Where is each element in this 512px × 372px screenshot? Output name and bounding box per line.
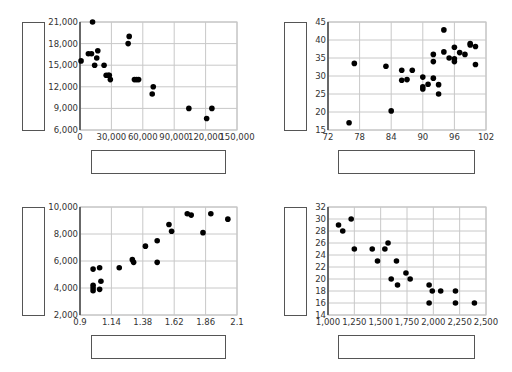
chart-panel-1: 030,00060,00090,000120,000150,0006,0009,… bbox=[0, 0, 256, 186]
data-point bbox=[452, 44, 458, 50]
y-tick-label: 20 bbox=[315, 274, 326, 284]
data-point bbox=[154, 238, 160, 244]
data-point bbox=[382, 246, 388, 252]
data-point bbox=[209, 106, 215, 112]
data-point bbox=[452, 59, 458, 65]
x-tick-label: 102 bbox=[478, 132, 494, 142]
data-point bbox=[420, 86, 426, 92]
data-point bbox=[225, 216, 231, 222]
data-point bbox=[169, 229, 175, 235]
data-point bbox=[204, 116, 210, 122]
data-point bbox=[426, 282, 432, 288]
data-point bbox=[438, 288, 444, 294]
x-tick-label: 1.62 bbox=[165, 317, 184, 327]
x-tick-label: 1.14 bbox=[102, 317, 121, 327]
x-tick-label: 2,000 bbox=[421, 317, 445, 327]
x-tick-label: 96 bbox=[449, 132, 460, 142]
data-point bbox=[453, 288, 459, 294]
data-point bbox=[425, 81, 431, 87]
data-point bbox=[90, 288, 96, 294]
y-tick-label: 9,000 bbox=[54, 103, 78, 113]
data-point bbox=[348, 216, 354, 222]
x-tick-label: 78 bbox=[354, 132, 365, 142]
y-tick-label: 10,000 bbox=[48, 202, 78, 212]
data-point bbox=[446, 55, 452, 61]
data-point bbox=[426, 300, 432, 306]
data-point bbox=[457, 50, 463, 56]
data-point bbox=[95, 48, 101, 54]
y-tick-label: 25 bbox=[315, 89, 326, 99]
y-tick-label: 35 bbox=[315, 53, 326, 63]
data-point bbox=[436, 91, 442, 97]
data-point bbox=[409, 67, 415, 73]
data-point bbox=[94, 55, 100, 61]
y-tick-label: 30 bbox=[315, 214, 326, 224]
y-tick-label: 40 bbox=[315, 35, 326, 45]
scatter-plot: 727884909610215202530354045 bbox=[256, 0, 512, 186]
x-tick-label: 90,000 bbox=[159, 132, 189, 142]
data-point bbox=[116, 265, 122, 271]
x-tick-label: 0 bbox=[77, 132, 82, 142]
data-point bbox=[98, 278, 104, 284]
y-tick-label: 30 bbox=[315, 71, 326, 81]
y-tick-label: 12,000 bbox=[48, 82, 78, 92]
data-point bbox=[92, 62, 98, 68]
scatter-plot: 1,0001,2501,5001,7502,0002,2502,50014161… bbox=[256, 186, 512, 372]
y-tick-label: 18,000 bbox=[48, 39, 78, 49]
data-point bbox=[200, 230, 206, 236]
data-point bbox=[208, 211, 214, 217]
y-tick-label: 21,000 bbox=[48, 17, 78, 27]
x-tick-label: 2.1 bbox=[230, 317, 244, 327]
x-tick-label: 1.38 bbox=[133, 317, 152, 327]
data-point bbox=[462, 52, 468, 58]
y-tick-label: 18 bbox=[315, 286, 326, 296]
x-tick-label: 1,500 bbox=[368, 317, 392, 327]
x-tick-label: 84 bbox=[386, 132, 397, 142]
data-point bbox=[126, 34, 132, 40]
data-point bbox=[404, 77, 410, 83]
x-tick-label: 150,000 bbox=[219, 132, 254, 142]
data-point bbox=[394, 258, 400, 264]
y-tick-label: 32 bbox=[315, 202, 326, 212]
data-point bbox=[136, 77, 142, 83]
data-point bbox=[154, 260, 160, 266]
y-tick-label: 14 bbox=[315, 310, 326, 320]
data-point bbox=[97, 287, 103, 293]
y-tick-label: 4,000 bbox=[54, 283, 78, 293]
y-tick-label: 6,000 bbox=[54, 256, 78, 266]
x-tick-label: 1.86 bbox=[196, 317, 215, 327]
x-tick-label: 1,750 bbox=[395, 317, 419, 327]
y-tick-label: 20 bbox=[315, 107, 326, 117]
data-point bbox=[90, 19, 96, 25]
y-tick-label: 15 bbox=[315, 125, 326, 135]
y-tick-label: 6,000 bbox=[54, 125, 78, 135]
data-point bbox=[352, 246, 358, 252]
data-point bbox=[473, 44, 479, 50]
data-point bbox=[346, 120, 352, 126]
x-tick-label: 30,000 bbox=[97, 132, 127, 142]
data-point bbox=[131, 260, 137, 266]
y-tick-label: 15,000 bbox=[48, 60, 78, 70]
x-tick-label: 120,000 bbox=[188, 132, 223, 142]
data-point bbox=[388, 108, 394, 114]
data-point bbox=[399, 67, 405, 73]
data-point bbox=[453, 300, 459, 306]
data-point bbox=[388, 276, 394, 282]
data-point bbox=[403, 270, 409, 276]
y-tick-label: 22 bbox=[315, 262, 326, 272]
data-point bbox=[407, 276, 413, 282]
x-tick-label: 2,500 bbox=[474, 317, 498, 327]
data-point bbox=[89, 51, 95, 57]
data-point bbox=[150, 84, 156, 90]
data-point bbox=[436, 82, 442, 88]
y-tick-label: 28 bbox=[315, 226, 326, 236]
y-tick-label: 16 bbox=[315, 298, 326, 308]
data-point bbox=[108, 77, 114, 83]
data-point bbox=[352, 61, 358, 67]
data-point bbox=[429, 288, 435, 294]
data-point bbox=[188, 212, 194, 218]
data-point bbox=[125, 41, 131, 47]
data-point bbox=[431, 52, 437, 58]
x-tick-label: 60,000 bbox=[128, 132, 158, 142]
data-point bbox=[420, 74, 426, 80]
